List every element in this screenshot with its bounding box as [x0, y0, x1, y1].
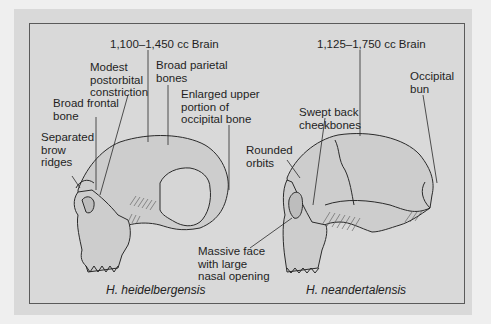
postorbital-label: Modest postorbital constriction	[90, 61, 148, 99]
left-brain-size-label: 1,100–1,450 cc Brain	[110, 38, 219, 51]
orbits-label: Rounded orbits	[246, 144, 293, 169]
occipital-bun-label: Occipital bun	[410, 70, 454, 95]
occipital-label: Enlarged upper portion of occipital bone	[181, 88, 260, 126]
right-brain-size-label: 1,125–1,750 cc Brain	[317, 38, 426, 51]
parietal-label: Broad parietal bones	[156, 59, 228, 84]
cheekbones-label: Swept back cheekbones	[299, 106, 361, 131]
brow-ridges-label: Separated brow ridges	[41, 131, 94, 169]
frontal-label: Broad frontal bone	[53, 97, 119, 122]
left-species-caption: H. heidelbergensis	[106, 283, 205, 297]
right-species-caption: H. neandertalensis	[306, 283, 406, 297]
face-label: Massive face with large nasal opening	[198, 245, 270, 283]
neandertalensis-skull-icon	[283, 134, 433, 273]
